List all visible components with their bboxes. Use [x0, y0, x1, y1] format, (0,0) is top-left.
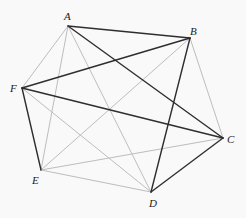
dark-edge-FE: [22, 88, 41, 170]
vertex-label-B: B: [190, 25, 197, 37]
vertex-label-C: C: [227, 133, 235, 145]
dark-edge-AB: [68, 26, 190, 38]
graph-diagram: ABCDEF: [0, 0, 246, 218]
dark-edge-BD: [151, 38, 190, 192]
vertex-label-D: D: [148, 197, 157, 209]
graph-svg: ABCDEF: [0, 0, 246, 218]
vertex-label-A: A: [63, 10, 71, 22]
light-edge-ED: [41, 170, 151, 192]
light-edge-BC: [190, 38, 223, 138]
dark-edge-CD: [151, 138, 223, 192]
light-edge-EC: [41, 138, 223, 170]
light-edges: [22, 26, 223, 192]
light-edge-AF: [22, 26, 68, 88]
dark-edge-FB: [22, 38, 190, 88]
vertex-labels: ABCDEF: [9, 10, 235, 209]
vertex-label-E: E: [31, 174, 39, 186]
light-edge-BE: [41, 38, 190, 170]
vertex-label-F: F: [9, 82, 17, 94]
dark-edge-AC: [68, 26, 223, 138]
